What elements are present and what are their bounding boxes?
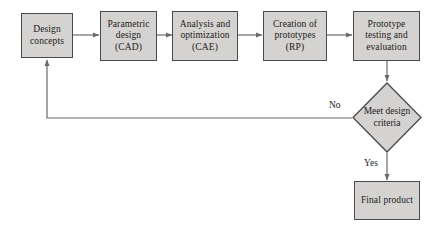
node-prototype-testing: Prototype testing and evaluation xyxy=(353,11,420,61)
node-line: (RP) xyxy=(273,42,317,54)
edge-decision-no-feedback xyxy=(47,60,352,118)
node-line: (CAD) xyxy=(107,42,149,54)
node-line: design xyxy=(386,106,411,116)
node-meet-design-criteria: Meet design criteria xyxy=(352,82,422,153)
node-line: design xyxy=(107,30,149,42)
node-line: (CAE) xyxy=(180,42,231,54)
flowchart-diagram: Design concepts Parametric design (CAD) … xyxy=(0,0,441,235)
node-line: prototypes xyxy=(273,30,317,42)
node-line: criteria xyxy=(374,118,401,128)
node-analysis-optimization: Analysis and optimization (CAE) xyxy=(172,11,238,61)
edge-label-yes: Yes xyxy=(364,158,378,168)
node-design-concepts: Design concepts xyxy=(21,13,73,58)
node-line: concepts xyxy=(30,36,64,48)
node-line: Meet xyxy=(364,106,384,116)
node-line: Analysis and xyxy=(180,19,231,31)
node-line: optimization xyxy=(180,30,231,42)
edge-label-no: No xyxy=(329,100,341,110)
node-line: Parametric xyxy=(107,19,149,31)
node-line: Final product xyxy=(361,195,413,207)
node-creation-prototypes: Creation of prototypes (RP) xyxy=(263,11,327,61)
node-line: Design xyxy=(30,24,64,36)
node-line: Creation of xyxy=(273,19,317,31)
node-parametric-design: Parametric design (CAD) xyxy=(100,11,157,61)
node-line: testing and xyxy=(365,30,408,42)
node-final-product: Final product xyxy=(354,181,420,220)
node-line: Prototype xyxy=(365,19,408,31)
node-line: evaluation xyxy=(365,42,408,54)
